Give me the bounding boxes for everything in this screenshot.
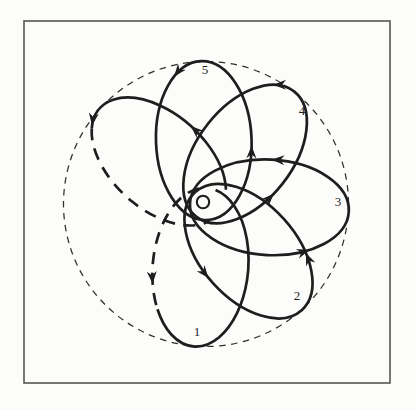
- orbit-label-1: 1: [194, 324, 201, 339]
- orbit-label-3: 3: [335, 194, 342, 209]
- orbit-label-5: 5: [202, 62, 209, 77]
- diagram-page: 12345: [0, 0, 416, 410]
- orbit-label-2: 2: [294, 288, 301, 303]
- precessing-orbit-diagram: 12345: [0, 0, 416, 410]
- sun-symbol-icon: [197, 196, 209, 208]
- orbit-label-4: 4: [299, 103, 306, 118]
